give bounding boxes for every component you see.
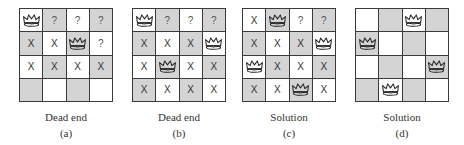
queen-icon xyxy=(204,36,223,51)
empty-cell xyxy=(356,79,378,101)
attacked-mark: X xyxy=(251,38,258,49)
panel-label: (b) xyxy=(132,126,226,140)
panel-caption: Dead end xyxy=(132,110,226,124)
attacked-mark: X xyxy=(51,38,58,49)
queen-cell xyxy=(313,32,335,54)
unexplored-mark: ? xyxy=(52,15,58,26)
unexplored-mark: ? xyxy=(98,38,104,49)
attacked-cell: X xyxy=(266,56,288,78)
panel-caption: Dead end xyxy=(19,110,113,124)
unexplored-mark: ? xyxy=(298,15,304,26)
attacked-mark: X xyxy=(164,38,171,49)
attacked-cell: X xyxy=(156,79,178,101)
attacked-mark: X xyxy=(274,38,281,49)
unexplored-mark: ? xyxy=(188,15,194,26)
attacked-mark: X xyxy=(74,61,81,72)
queen-icon xyxy=(358,36,377,51)
board-panel-b: ???XXXXXXXXXXDead end(b) xyxy=(132,8,226,140)
unexplored-mark: ? xyxy=(98,15,104,26)
attacked-mark: X xyxy=(297,61,304,72)
attacked-mark: X xyxy=(274,84,281,95)
panel-caption: Solution xyxy=(242,110,336,124)
attacked-cell: X xyxy=(43,32,65,54)
attacked-cell: X xyxy=(290,56,312,78)
empty-cell xyxy=(403,56,425,78)
queen-icon xyxy=(314,36,333,51)
queen-cell xyxy=(266,9,288,31)
queen-icon xyxy=(381,82,400,97)
unexplored-mark: ? xyxy=(211,15,217,26)
queen-icon xyxy=(245,59,264,74)
empty-cell xyxy=(90,79,112,101)
attacked-cell: X xyxy=(133,56,155,78)
unexplored-cell: ? xyxy=(313,9,335,31)
attacked-cell: X xyxy=(266,32,288,54)
queen-cell xyxy=(356,32,378,54)
attacked-mark: X xyxy=(211,84,218,95)
empty-cell xyxy=(43,79,65,101)
attacked-mark: X xyxy=(187,61,194,72)
empty-cell xyxy=(379,56,401,78)
attacked-mark: X xyxy=(321,61,328,72)
queen-cell xyxy=(203,32,225,54)
queen-cell xyxy=(20,9,42,31)
empty-cell xyxy=(356,56,378,78)
panel-caption: Solution xyxy=(355,110,449,124)
queen-cell xyxy=(379,79,401,101)
attacked-mark: X xyxy=(297,38,304,49)
attacked-mark: X xyxy=(274,61,281,72)
attacked-cell: X xyxy=(180,56,202,78)
attacked-mark: X xyxy=(321,84,328,95)
unexplored-cell: ? xyxy=(43,9,65,31)
empty-cell xyxy=(20,79,42,101)
attacked-cell: X xyxy=(20,32,42,54)
attacked-cell: X xyxy=(313,56,335,78)
attacked-mark: X xyxy=(141,38,148,49)
attacked-mark: X xyxy=(98,61,105,72)
empty-cell xyxy=(426,9,448,31)
attacked-mark: X xyxy=(51,61,58,72)
attacked-mark: X xyxy=(211,61,218,72)
attacked-mark: X xyxy=(164,84,171,95)
empty-cell xyxy=(426,32,448,54)
attacked-mark: X xyxy=(28,38,35,49)
unexplored-mark: ? xyxy=(321,15,327,26)
attacked-mark: X xyxy=(28,61,35,72)
attacked-cell: X xyxy=(290,32,312,54)
queen-icon xyxy=(291,82,310,97)
unexplored-cell: ? xyxy=(90,32,112,54)
attacked-mark: X xyxy=(141,61,148,72)
attacked-cell: X xyxy=(20,56,42,78)
queen-icon xyxy=(22,13,41,28)
empty-cell xyxy=(403,79,425,101)
panel-label: (c) xyxy=(242,126,336,140)
panel-label: (d) xyxy=(355,126,449,140)
attacked-cell: X xyxy=(156,32,178,54)
attacked-mark: X xyxy=(251,15,258,26)
queen-cell xyxy=(67,32,89,54)
queen-cell xyxy=(426,56,448,78)
attacked-cell: X xyxy=(243,9,265,31)
unexplored-cell: ? xyxy=(156,9,178,31)
attacked-cell: X xyxy=(67,56,89,78)
unexplored-mark: ? xyxy=(75,15,81,26)
chess-board: X??XXXXXXXXX xyxy=(242,8,336,102)
board-panel-c: X??XXXXXXXXXSolution(c) xyxy=(242,8,336,140)
board-panel-a: ???XX?XXXXDead end(a) xyxy=(19,8,113,140)
board-panel-d: Solution(d) xyxy=(355,8,449,140)
attacked-mark: X xyxy=(251,84,258,95)
queen-icon xyxy=(135,13,154,28)
attacked-mark: X xyxy=(187,84,194,95)
attacked-cell: X xyxy=(243,32,265,54)
chess-board: ???XXXXXXXXXX xyxy=(132,8,226,102)
queen-icon xyxy=(68,36,87,51)
unexplored-mark: ? xyxy=(165,15,171,26)
queen-cell xyxy=(133,9,155,31)
queen-icon xyxy=(427,59,446,74)
empty-cell xyxy=(379,9,401,31)
attacked-cell: X xyxy=(313,79,335,101)
unexplored-cell: ? xyxy=(67,9,89,31)
attacked-cell: X xyxy=(43,56,65,78)
attacked-cell: X xyxy=(180,79,202,101)
queen-cell xyxy=(403,9,425,31)
